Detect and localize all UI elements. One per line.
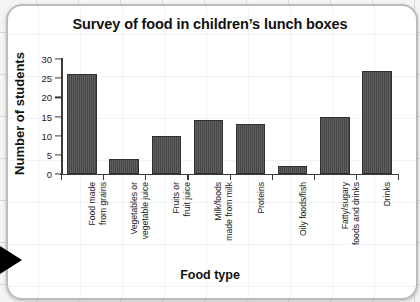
bar — [152, 136, 181, 174]
bar — [278, 166, 307, 174]
x-axis-tick-mark — [398, 174, 399, 180]
y-axis-tick-label: 5 — [28, 149, 52, 160]
bar — [109, 159, 138, 174]
x-axis-tick-mark — [103, 174, 104, 180]
y-axis-tick-mark — [55, 135, 61, 136]
x-axis-category-label: Drinks — [382, 182, 393, 268]
plot-area — [61, 59, 398, 174]
x-axis-tick-mark — [356, 174, 357, 180]
x-axis-category-label: Food made from grains — [87, 182, 108, 268]
y-axis-tick-labels: 051015202530 — [28, 0, 52, 302]
bar — [320, 117, 349, 175]
y-axis-label-wrap: Number of students — [8, 40, 30, 190]
y-axis-tick-label: 20 — [28, 92, 52, 103]
x-axis-category-label: Oily foods/fish — [298, 182, 309, 268]
x-axis-tick-mark — [187, 174, 188, 180]
x-axis-tick-mark — [61, 174, 62, 180]
x-axis-tick-mark — [314, 174, 315, 180]
chart-title: Survey of food in children’s lunch boxes — [0, 16, 420, 32]
left-edge-arrow-tail-icon — [0, 252, 8, 268]
y-axis-tick-label: 10 — [28, 130, 52, 141]
y-axis-tick-mark — [55, 58, 61, 59]
x-axis-label: Food type — [0, 268, 420, 282]
bar — [362, 71, 391, 175]
y-axis-tick-label: 25 — [28, 73, 52, 84]
y-axis-tick-mark — [55, 78, 61, 79]
x-axis-category-label: Milk/foods made from milk — [213, 182, 234, 268]
x-axis-category-label: Fruits or fruit juice — [171, 182, 192, 268]
x-axis-category-label: Proteins — [256, 182, 267, 268]
y-axis-tick-mark — [55, 154, 61, 155]
y-axis-tick-label: 15 — [28, 111, 52, 122]
x-axis-category-label: Fatty/sugary foods and drinks — [340, 182, 361, 268]
y-axis-label: Number of students — [12, 39, 27, 189]
y-axis-tick-mark — [55, 116, 61, 117]
bar — [194, 120, 223, 174]
bar — [236, 124, 265, 174]
bar — [67, 74, 96, 174]
x-axis-category-label: Vegetables or vegetable juice — [129, 182, 150, 268]
y-axis-tick-mark — [55, 97, 61, 98]
x-axis-tick-mark — [230, 174, 231, 180]
y-axis-tick-label: 30 — [28, 54, 52, 65]
y-axis-tick-label: 0 — [28, 169, 52, 180]
x-axis-tick-mark — [272, 174, 273, 180]
page-root: Survey of food in children’s lunch boxes… — [0, 0, 420, 302]
x-axis-tick-mark — [145, 174, 146, 180]
